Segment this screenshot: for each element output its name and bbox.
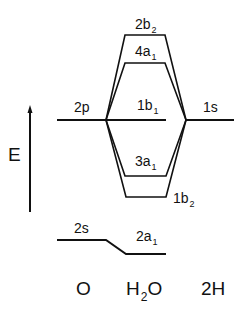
label-4a1: 4a1 — [135, 44, 157, 60]
label-3a1: 3a1 — [135, 154, 157, 170]
arrow-up-icon — [28, 105, 33, 113]
label-2s: 2s — [74, 221, 89, 235]
label-2b2: 2b2 — [135, 17, 157, 33]
label-1s: 1s — [203, 100, 218, 114]
column-label-2H: 2H — [201, 279, 225, 298]
label-1b1: 1b1 — [137, 98, 159, 114]
label-1b2: 1b2 — [173, 191, 195, 207]
energy-axis-label: E — [8, 145, 21, 164]
column-label-O: O — [76, 279, 91, 298]
column-label-H2O: H2O — [126, 279, 162, 301]
mo-diagram-lines — [0, 0, 246, 317]
label-2p: 2p — [74, 100, 90, 114]
label-2a1: 2a1 — [136, 229, 158, 245]
